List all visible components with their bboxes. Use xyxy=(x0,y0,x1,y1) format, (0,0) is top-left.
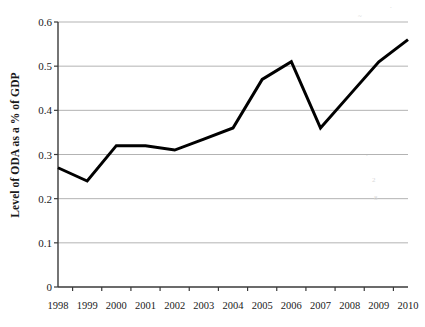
gridlines xyxy=(58,22,408,243)
scan-artifact: . xyxy=(366,150,368,158)
chart-container: Level of ODA as a % of GDP 00.10.20.30.4… xyxy=(0,0,425,327)
scan-artifact: ~ xyxy=(358,12,362,20)
scan-artifact: 2 xyxy=(372,176,376,184)
scan-artifact: 8 xyxy=(374,194,378,202)
plot-area xyxy=(0,0,425,327)
scan-artifact: . xyxy=(390,2,392,10)
